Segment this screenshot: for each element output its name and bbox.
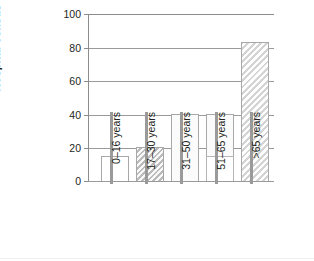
ytick-label-20: 20 bbox=[69, 142, 81, 154]
xtick-0-16-years: 0–16 years bbox=[108, 184, 122, 256]
xtick-51-65-years: 51–65 years bbox=[213, 184, 227, 256]
xtick-17-30-years: 17–30 years bbox=[143, 184, 157, 256]
ytick-label-80: 80 bbox=[69, 42, 81, 54]
x-axis-tick-labels: 0–16 years 17–30 years 31–50 years 51–65… bbox=[89, 184, 275, 258]
xtick-label-4: >65 years bbox=[250, 112, 262, 184]
ytick-label-40: 40 bbox=[69, 109, 81, 121]
xtick-31-50-years: 31–50 years bbox=[178, 184, 192, 256]
bar-chart-figure: Hospital census 100 80 60 40 20 0 bbox=[0, 0, 314, 261]
xtick-label-2: 31–50 years bbox=[180, 112, 192, 184]
figure-bottom-rule bbox=[0, 258, 314, 259]
y-axis-title: Hospital census bbox=[0, 0, 6, 108]
xtick-label-0: 0–16 years bbox=[110, 112, 122, 184]
ytick-label-0: 0 bbox=[75, 175, 81, 187]
ytick-label-100: 100 bbox=[63, 8, 81, 20]
xtick-over-65-years: >65 years bbox=[248, 184, 262, 256]
ytick-label-60: 60 bbox=[69, 75, 81, 87]
xtick-label-3: 51–65 years bbox=[215, 112, 227, 184]
tick-mark-0 bbox=[84, 181, 88, 182]
xtick-label-1: 17–30 years bbox=[145, 112, 157, 184]
